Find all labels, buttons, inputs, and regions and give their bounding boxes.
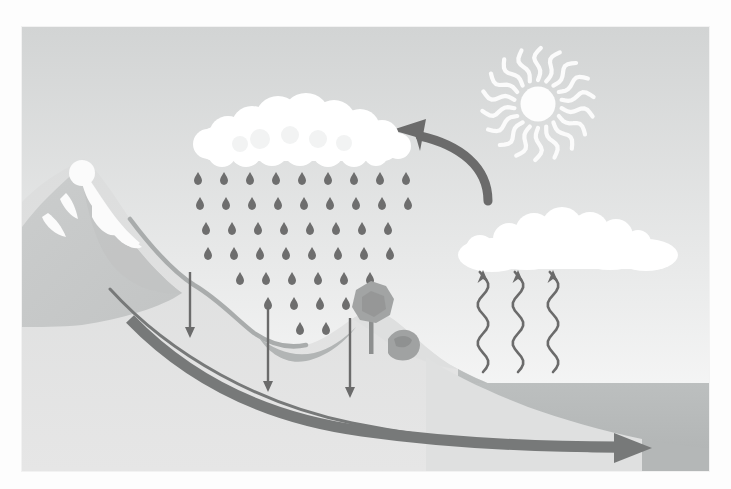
sun-disc — [521, 87, 556, 122]
water-cycle-illustration-frame — [22, 27, 709, 471]
bush — [388, 330, 420, 361]
screenshot-stage — [0, 0, 731, 489]
water-cycle-diagram — [22, 27, 709, 471]
